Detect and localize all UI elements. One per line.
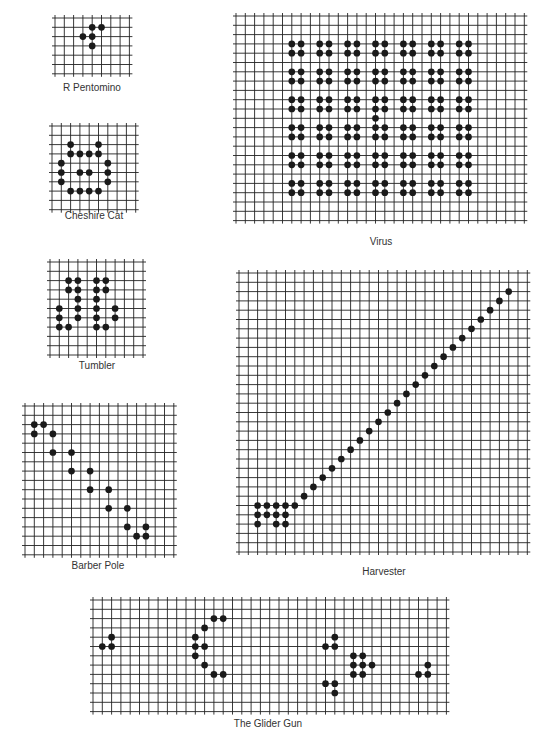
live-cell — [282, 521, 289, 528]
live-cell — [102, 324, 109, 331]
live-cell — [350, 671, 357, 678]
live-cell — [108, 643, 115, 650]
live-cell — [372, 152, 379, 159]
live-cell — [372, 115, 379, 122]
live-cell — [354, 161, 361, 168]
live-cell — [291, 502, 298, 509]
live-cell — [319, 474, 326, 481]
live-cell — [372, 124, 379, 131]
live-cell — [316, 189, 323, 196]
live-cell — [456, 106, 463, 113]
cheshire-cat-grid — [52, 126, 136, 210]
live-cell — [338, 456, 345, 463]
live-cell — [381, 134, 388, 141]
live-cell — [354, 152, 361, 159]
live-cell — [298, 180, 305, 187]
live-cell — [369, 662, 376, 669]
live-cell — [428, 41, 435, 48]
live-cell — [437, 78, 444, 85]
live-cell — [86, 188, 93, 195]
live-cell — [456, 152, 463, 159]
live-cell — [400, 68, 407, 75]
live-cell — [409, 189, 416, 196]
live-cell — [298, 68, 305, 75]
live-cell — [428, 180, 435, 187]
live-cell — [344, 134, 351, 141]
live-cell — [273, 511, 280, 518]
live-cell — [456, 134, 463, 141]
live-cell — [372, 180, 379, 187]
live-cell — [347, 446, 354, 453]
live-cell — [56, 324, 63, 331]
live-cell — [288, 161, 295, 168]
live-cell — [424, 671, 431, 678]
live-cell — [465, 134, 472, 141]
live-cell — [409, 124, 416, 131]
live-cell — [465, 152, 472, 159]
live-cell — [465, 189, 472, 196]
live-cell — [428, 124, 435, 131]
live-cell — [381, 124, 388, 131]
live-cell — [344, 124, 351, 131]
live-cell — [437, 68, 444, 75]
live-cell — [326, 124, 333, 131]
live-cell — [381, 68, 388, 75]
live-cell — [67, 188, 74, 195]
live-cell — [456, 189, 463, 196]
live-cell — [400, 96, 407, 103]
live-cell — [89, 33, 96, 40]
live-cell — [428, 68, 435, 75]
live-cell — [437, 50, 444, 57]
live-cell — [428, 78, 435, 85]
live-cell — [86, 151, 93, 158]
live-cell — [77, 151, 84, 158]
live-cell — [50, 449, 57, 456]
live-cell — [93, 277, 100, 284]
live-cell — [50, 431, 57, 438]
live-cell — [31, 421, 38, 428]
live-cell — [354, 180, 361, 187]
live-cell — [354, 50, 361, 57]
live-cell — [108, 634, 115, 641]
live-cell — [456, 180, 463, 187]
live-cell — [422, 372, 429, 379]
live-cell — [326, 96, 333, 103]
live-cell — [381, 161, 388, 168]
live-cell — [344, 96, 351, 103]
live-cell — [428, 189, 435, 196]
live-cell — [424, 662, 431, 669]
live-cell — [326, 134, 333, 141]
live-cell — [415, 671, 422, 678]
live-cell — [264, 511, 271, 518]
live-cell — [372, 68, 379, 75]
live-cell — [400, 189, 407, 196]
live-cell — [288, 96, 295, 103]
live-cell — [273, 502, 280, 509]
live-cell — [456, 96, 463, 103]
live-cell — [67, 151, 74, 158]
live-cell — [456, 124, 463, 131]
live-cell — [381, 180, 388, 187]
live-cell — [102, 287, 109, 294]
live-cell — [400, 180, 407, 187]
live-cell — [211, 671, 218, 678]
live-cell — [403, 391, 410, 398]
live-cell — [298, 106, 305, 113]
live-cell — [87, 486, 94, 493]
live-cell — [350, 662, 357, 669]
live-cell — [298, 161, 305, 168]
live-cell — [384, 409, 391, 416]
live-cell — [437, 161, 444, 168]
live-cell — [456, 161, 463, 168]
live-cell — [288, 41, 295, 48]
live-cell — [354, 124, 361, 131]
live-cell — [80, 33, 87, 40]
live-cell — [105, 505, 112, 512]
live-cell — [93, 305, 100, 312]
live-cell — [354, 189, 361, 196]
live-cell — [450, 344, 457, 351]
live-cell — [465, 124, 472, 131]
live-cell — [99, 643, 106, 650]
live-cell — [77, 188, 84, 195]
live-cell — [192, 643, 199, 650]
